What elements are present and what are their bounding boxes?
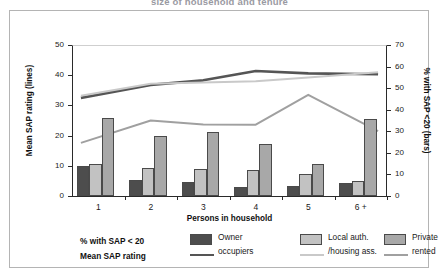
y-axis-right-tick-mark (387, 174, 391, 175)
legend-row-label-lines: Mean SAP rating (80, 249, 190, 264)
legend-label-line2: /housing ass. (328, 246, 377, 256)
figure-frame: Mean SAP rating (lines) % with SAP <20 (… (9, 10, 429, 268)
bar (364, 119, 377, 196)
legend-entry[interactable]: Privaterented (384, 233, 439, 265)
chart-legend: % with SAP < 20 Mean SAP rating Ownerocc… (72, 233, 412, 265)
bar (312, 164, 325, 196)
x-axis-tick-mark (387, 196, 388, 200)
y-axis-left-tick-mark (68, 75, 72, 76)
y-axis-right-tick-label: 70 (395, 40, 419, 49)
bar (339, 183, 352, 196)
bar (207, 132, 220, 196)
bar (259, 144, 272, 196)
y-axis-left-tick-mark (68, 166, 72, 167)
x-axis-tick-mark (177, 196, 178, 200)
plot-area (72, 45, 387, 196)
x-axis-tick-label: 6 + (341, 202, 381, 212)
y-axis-right-tick-mark (387, 88, 391, 89)
legend-swatch (300, 234, 322, 245)
bar (142, 168, 155, 196)
x-axis-title: Persons in household (72, 214, 387, 223)
bar (77, 166, 90, 196)
y-axis-right-tick-label: 40 (395, 105, 419, 114)
y-axis-right-tick-mark (387, 153, 391, 154)
y-axis-left-tick-label: 50 (40, 40, 64, 49)
legend-label-line2: occupiers (218, 246, 254, 256)
y-axis-right-tick-label: 50 (395, 83, 419, 92)
legend-entry[interactable]: Owneroccupiers (190, 233, 298, 265)
legend-label-line1: Private (412, 232, 438, 242)
y-axis-left-tick-label: 30 (40, 100, 64, 109)
y-axis-right-tick-label: 10 (395, 169, 419, 178)
y-axis-left-title: Mean SAP rating (lines) (25, 56, 34, 166)
legend-line-sample (384, 254, 408, 256)
legend-swatch (190, 234, 212, 245)
x-axis-tick-label: 3 (183, 202, 223, 212)
legend-line-sample (190, 254, 214, 256)
y-axis-right-tick-label: 0 (395, 191, 419, 200)
bar (247, 170, 260, 196)
legend-row-labels: % with SAP < 20 Mean SAP rating (80, 234, 190, 264)
legend-label-line2: rented (412, 246, 436, 256)
y-axis-right-tick-label: 30 (395, 126, 419, 135)
legend-swatch (384, 234, 406, 245)
y-axis-left-tick-label: 0 (40, 191, 64, 200)
y-axis-right-tick-mark (387, 131, 391, 132)
x-axis-tick-mark (335, 196, 336, 200)
legend-label-line1: Local auth. (328, 232, 369, 242)
y-axis-left-tick-label: 10 (40, 161, 64, 170)
legend-row-label-bars: % with SAP < 20 (80, 234, 190, 249)
bar (194, 169, 207, 196)
y-axis-right-tick-mark (387, 67, 391, 68)
x-axis-tick-mark (230, 196, 231, 200)
bar (287, 186, 300, 196)
figure-caption: size of household and tenure (0, 0, 439, 5)
y-axis-left-tick-mark (68, 45, 72, 46)
bar (102, 118, 115, 196)
y-axis-right-tick-label: 60 (395, 62, 419, 71)
bar (352, 181, 365, 196)
y-axis-right-title: % with SAP <20 (bars) (422, 47, 431, 175)
bar (182, 182, 195, 196)
y-axis-right-tick-mark (387, 45, 391, 46)
y-axis-left-tick-mark (68, 196, 72, 197)
x-axis-tick-label: 1 (78, 202, 118, 212)
bar (299, 174, 312, 196)
x-axis-tick-label: 2 (131, 202, 171, 212)
bar (129, 180, 142, 196)
bar (154, 136, 167, 196)
x-axis-tick-label: 5 (288, 202, 328, 212)
y-axis-left-tick-label: 40 (40, 70, 64, 79)
y-axis-right-tick-mark (387, 110, 391, 111)
legend-line-sample (300, 254, 324, 256)
x-axis-tick-mark (282, 196, 283, 200)
y-axis-left-tick-label: 20 (40, 131, 64, 140)
y-axis-left-tick-mark (68, 136, 72, 137)
bar (89, 164, 102, 196)
legend-label-line1: Owner (218, 232, 242, 242)
y-axis-right-tick-label: 20 (395, 148, 419, 157)
x-axis-tick-label: 4 (236, 202, 276, 212)
y-axis-left-tick-mark (68, 105, 72, 106)
bar (234, 187, 247, 196)
x-axis-tick-mark (125, 196, 126, 200)
